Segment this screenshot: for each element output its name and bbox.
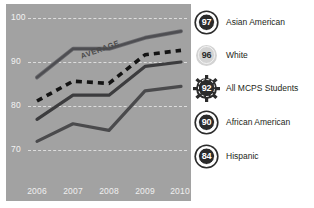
chart-panel: 100 90 80 70 AVERAGE 2006 2007 2008 2009… bbox=[6, 4, 191, 201]
legend-item-asian-american: 97 Asian American bbox=[196, 9, 285, 35]
legend-label: Asian American bbox=[226, 17, 285, 27]
x-axis-tick-2009: 2009 bbox=[128, 186, 162, 196]
legend-badge-icon-92: 92 bbox=[196, 78, 217, 99]
x-axis-tick-2008: 2008 bbox=[92, 186, 126, 196]
legend-label: White bbox=[226, 50, 248, 60]
x-axis-tick-2006: 2006 bbox=[20, 186, 54, 196]
legend-badge-value: 97 bbox=[202, 17, 211, 27]
legend-item-african-american: 90 African American bbox=[196, 109, 290, 135]
legend-badge-value: 92 bbox=[202, 83, 211, 93]
legend-label: African American bbox=[226, 117, 290, 127]
legend-badge-icon-97: 97 bbox=[196, 12, 217, 33]
legend-item-hispanic: 84 Hispanic bbox=[196, 143, 259, 169]
legend-badge-icon-90: 90 bbox=[196, 112, 217, 133]
legend-badge-value: 96 bbox=[202, 50, 211, 60]
chart-screenshot: 100 90 80 70 AVERAGE 2006 2007 2008 2009… bbox=[0, 0, 314, 208]
legend-badge-value: 90 bbox=[202, 117, 211, 127]
legend-badge-value: 84 bbox=[202, 151, 211, 161]
legend-badge-icon-96: 96 bbox=[196, 45, 217, 66]
legend-label: All MCPS Students bbox=[226, 83, 298, 93]
x-axis-tick-2010: 2010 bbox=[163, 186, 191, 196]
line-plot bbox=[6, 4, 191, 201]
legend-label: Hispanic bbox=[226, 151, 259, 161]
x-axis-tick-2007: 2007 bbox=[56, 186, 90, 196]
chart-legend: 97 Asian American 96 White bbox=[196, 4, 312, 201]
legend-item-white: 96 White bbox=[196, 42, 248, 68]
legend-item-all-mcps-students: 92 All MCPS Students bbox=[196, 75, 298, 101]
legend-badge-icon-84: 84 bbox=[196, 146, 217, 167]
